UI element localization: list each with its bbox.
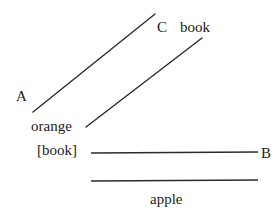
edge-bookbracket-to-b-line <box>91 152 258 153</box>
diagram-lines-group <box>0 0 279 222</box>
node-label-a: A <box>16 89 27 104</box>
word-label-book-bracketed: [book] <box>37 143 77 158</box>
node-label-b: B <box>261 146 271 161</box>
diagram-canvas: A C B book orange [book] apple <box>0 0 279 222</box>
word-label-book-top: book <box>180 20 210 35</box>
edge-orange-to-book-line <box>86 38 202 127</box>
edge-a-to-c-line <box>33 14 155 112</box>
word-label-orange: orange <box>31 119 72 134</box>
word-label-apple: apple <box>150 192 182 207</box>
node-label-c: C <box>157 20 167 35</box>
edge-apple-line <box>91 180 258 181</box>
